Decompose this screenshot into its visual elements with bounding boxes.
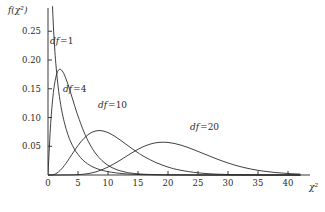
tick-marks-group [48, 31, 288, 175]
y-axis-title: f(χ²) [7, 5, 28, 15]
x-tick-label: 30 [223, 178, 234, 188]
y-tick-labels-group: 0.050.100.150.200.25 [22, 26, 41, 151]
series-label-df-4: df=4 [63, 84, 87, 94]
x-tick-label: 0 [45, 178, 50, 188]
x-tick-label: 40 [283, 178, 294, 188]
x-tick-label: 10 [103, 178, 114, 188]
y-tick-label: 0.15 [22, 84, 41, 94]
y-tick-label: 0.10 [22, 113, 41, 123]
y-tick-label: 0.25 [22, 26, 41, 36]
curve-df-1 [49, 0, 300, 175]
series-label-df-20: df=20 [190, 122, 219, 132]
series-annotations-group: df=1df=4df=10df=20 [50, 36, 219, 132]
chi-square-distribution-chart: 0510152025303540 0.050.100.150.200.25 df… [0, 0, 325, 212]
x-tick-labels-group: 0510152025303540 [45, 178, 293, 188]
x-tick-label: 20 [163, 178, 174, 188]
x-tick-label: 25 [193, 178, 204, 188]
y-tick-label: 0.20 [22, 55, 41, 65]
x-tick-label: 5 [75, 178, 80, 188]
series-label-df-10: df=10 [98, 100, 127, 110]
x-axis-title: χ² [308, 182, 318, 192]
axes-group [48, 8, 310, 175]
x-tick-label: 15 [133, 178, 144, 188]
series-label-df-1: df=1 [50, 36, 73, 46]
curve-df-20 [48, 142, 300, 175]
chart-canvas: 0510152025303540 0.050.100.150.200.25 df… [0, 0, 325, 212]
y-tick-label: 0.05 [22, 141, 41, 151]
x-tick-label: 35 [253, 178, 264, 188]
